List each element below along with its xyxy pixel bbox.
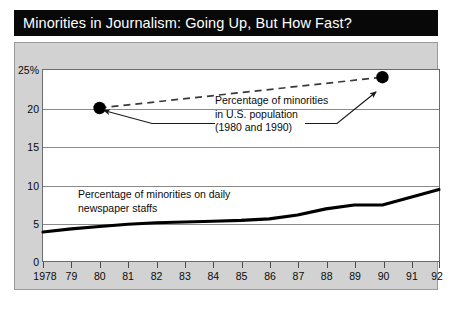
x-tick-1991 [412,262,413,268]
x-tick-1984 [213,262,214,268]
x-tick-label-1981: 81 [122,270,134,282]
x-tick-1983 [185,262,186,268]
x-tick-label-1987: 87 [293,270,305,282]
y-tick-label-15: 15 [27,141,39,153]
x-tick-1992 [439,262,440,268]
x-tick-1978 [43,262,44,268]
x-tick-1982 [157,262,158,268]
x-tick-1980 [100,262,101,268]
y-tick-label-10: 10 [27,180,39,192]
x-tick-1989 [355,262,356,268]
x-tick-label-1991: 91 [406,270,418,282]
gridline-5 [43,224,439,225]
x-tick-label-1979: 79 [66,270,78,282]
x-tick-label-1990: 90 [378,270,390,282]
x-tick-label-1985: 85 [236,270,248,282]
x-tick-label-1983: 83 [179,270,191,282]
x-tick-1981 [128,262,129,268]
y-tick-label-25: 25% [18,64,39,76]
annotation-population-line2: in U.S. population [215,108,328,122]
chart-figure: Minorities in Journalism: Going Up, But … [0,0,465,309]
x-tick-label-1978: 1978 [33,270,56,282]
y-tick-label-5: 5 [33,218,39,230]
x-tick-1986 [270,262,271,268]
x-tick-label-1986: 86 [264,270,276,282]
x-tick-label-1988: 88 [321,270,333,282]
x-tick-1987 [298,262,299,268]
x-tick-1985 [242,262,243,268]
annotation-staffs: Percentage of minorities on daily newspa… [78,188,230,215]
x-tick-label-1982: 82 [151,270,163,282]
x-tick-1979 [71,262,72,268]
gridline-10 [43,186,439,187]
x-tick-label-1992: 92 [431,270,443,282]
x-tick-1990 [384,262,385,268]
y-tick-label-20: 20 [27,103,39,115]
x-tick-label-1989: 89 [349,270,361,282]
chart-title-bar: Minorities in Journalism: Going Up, But … [14,10,438,36]
page-title: Minorities in Journalism: Going Up, But … [14,15,352,31]
x-tick-label-1984: 84 [207,270,219,282]
annotation-staffs-line2: newspaper staffs [78,202,230,216]
y-tick-label-0: 0 [33,256,39,268]
x-tick-label-1980: 80 [94,270,106,282]
gridline-15 [43,147,439,148]
annotation-population: Percentage of minorities in U.S. populat… [215,94,328,135]
annotation-population-line3: (1980 and 1990) [215,121,328,135]
y-axis-labels: 25% 20 15 10 5 0 [0,0,39,309]
annotation-population-line1: Percentage of minorities [215,94,328,108]
annotation-staffs-line1: Percentage of minorities on daily [78,188,230,202]
x-tick-1988 [327,262,328,268]
